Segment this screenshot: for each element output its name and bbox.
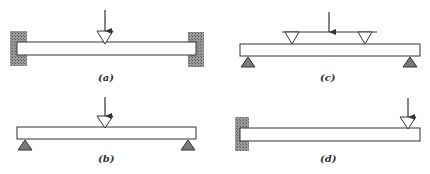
load-point-triangle (97, 116, 113, 128)
panel-label-d: (d) (320, 153, 337, 164)
panel-label-b: (b) (98, 153, 115, 164)
right-pin-support-icon (403, 57, 417, 67)
load-point-triangle (400, 117, 416, 129)
beam-diagrams: (a) (c) (b) (d) (0, 0, 430, 174)
panel-c: (c) (240, 12, 420, 83)
panel-label-a: (a) (98, 72, 114, 83)
panel-a: (a) (10, 10, 204, 83)
panel-d: (d) (235, 98, 420, 164)
panel-b: (b) (17, 97, 196, 164)
beam (240, 44, 420, 56)
right-pin-support-icon (181, 140, 195, 150)
beam (17, 42, 196, 55)
load-point-triangle-right (358, 32, 372, 44)
load-point-triangle-left (285, 32, 299, 44)
beam (240, 128, 420, 141)
panel-label-c: (c) (320, 72, 336, 83)
left-pin-support-icon (241, 57, 255, 67)
left-pin-support-icon (18, 140, 32, 150)
beam (17, 127, 196, 139)
